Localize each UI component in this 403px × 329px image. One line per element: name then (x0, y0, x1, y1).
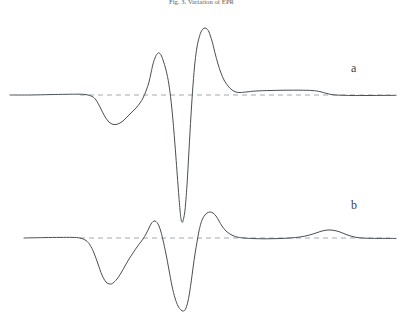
figure-root: Fig. 3. Variation of EPR a b (0, 0, 403, 329)
baseline-group (80, 95, 390, 238)
spectrum-trace-a (10, 28, 396, 222)
spectra-plot (0, 0, 403, 329)
trace-label-a: a (351, 62, 356, 74)
trace-group (10, 28, 396, 311)
spectrum-trace-b (24, 212, 396, 311)
trace-label-b: b (351, 199, 357, 211)
